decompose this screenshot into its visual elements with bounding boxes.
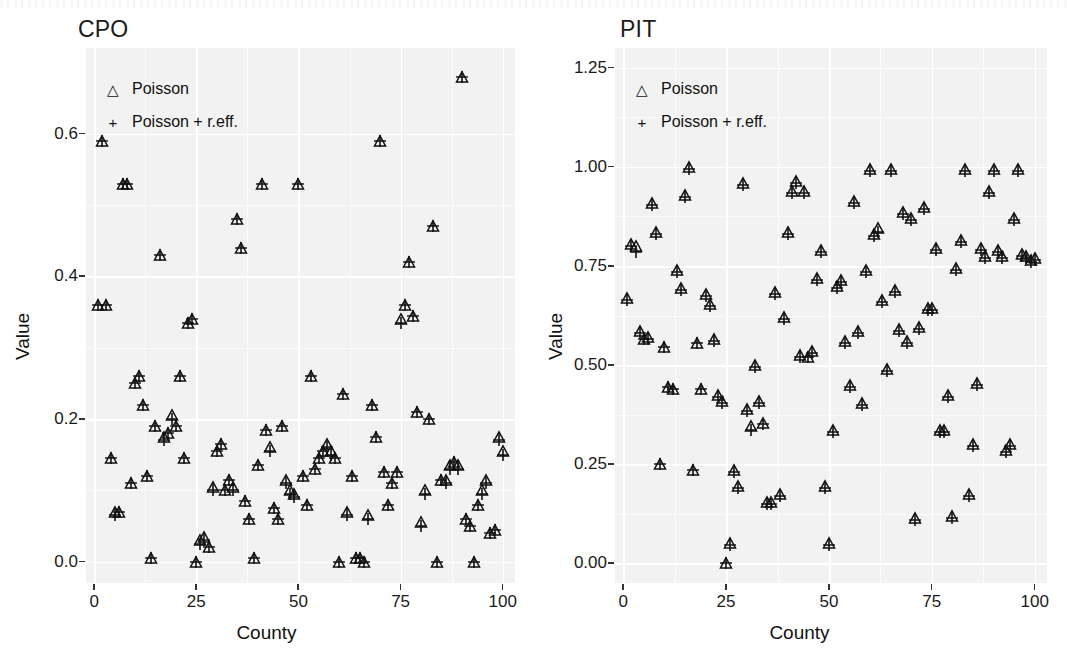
plus-marker [239, 494, 252, 507]
triangle-marker [884, 162, 897, 175]
gridline-major-horizontal [615, 266, 1047, 268]
plus-marker [913, 323, 926, 336]
gridline-major-vertical [503, 48, 505, 583]
plus-marker [255, 177, 268, 190]
triangle-marker [757, 416, 770, 429]
triangle-marker [790, 174, 803, 187]
triangle-marker [321, 437, 334, 450]
plus-marker [235, 241, 248, 254]
plus-marker [161, 427, 174, 440]
plus-marker [427, 220, 440, 233]
triangle-marker [674, 281, 687, 294]
y-tick-mark [608, 364, 614, 366]
plus-marker [300, 498, 313, 511]
triangle-marker [629, 240, 642, 253]
plus-marker [157, 434, 170, 447]
triangle-marker [810, 271, 823, 284]
triangle-marker [231, 213, 244, 226]
triangle-marker [938, 424, 951, 437]
x-tick-label: 100 [1020, 592, 1048, 612]
triangle-marker [451, 459, 464, 472]
plus-marker [954, 236, 967, 249]
plus-marker [971, 378, 984, 391]
triangle-marker [243, 512, 256, 525]
plus-marker [133, 370, 146, 383]
gridline-major-vertical [401, 48, 403, 583]
plus-marker [267, 502, 280, 515]
plus-marker [892, 325, 905, 338]
triangle-marker [736, 176, 749, 189]
plus-marker [761, 497, 774, 510]
triangle-marker [178, 452, 191, 465]
gridline-minor-horizontal [86, 490, 515, 491]
plus-marker [888, 285, 901, 298]
plus-marker [472, 498, 485, 511]
y-tick-mark [79, 133, 85, 135]
triangle-marker [329, 452, 342, 465]
triangle-marker [958, 162, 971, 175]
plus-marker [276, 420, 289, 433]
plus-marker [843, 380, 856, 393]
legend-item: +Poisson + r.eff. [100, 113, 238, 131]
triangle-marker [202, 541, 215, 554]
triangle-marker [983, 184, 996, 197]
plus-marker [765, 497, 778, 510]
plus-marker [153, 248, 166, 261]
triangle-marker [753, 394, 766, 407]
plus-marker [325, 448, 338, 461]
triangle-marker [851, 325, 864, 338]
plus-marker [757, 418, 770, 431]
plus-marker [459, 512, 472, 525]
triangle-marker [267, 502, 280, 515]
triangle-marker [703, 297, 716, 310]
plus-marker [691, 337, 704, 350]
triangle-marker [464, 519, 477, 532]
plus-marker [484, 527, 497, 540]
plus-marker [104, 452, 117, 465]
plus-marker [979, 252, 992, 265]
triangle-marker [427, 220, 440, 233]
y-tick-mark [608, 562, 614, 564]
gridline-major-horizontal [615, 68, 1047, 70]
legend-label: Poisson [661, 80, 718, 98]
legend-label: Poisson + r.eff. [132, 113, 238, 131]
triangle-marker [345, 470, 358, 483]
plus-marker [901, 337, 914, 350]
legend-item: +Poisson + r.eff. [629, 113, 767, 131]
plus-marker [210, 445, 223, 458]
gridline-minor-vertical [778, 48, 779, 583]
triangle-marker [954, 234, 967, 247]
plus-marker [999, 446, 1012, 459]
plus-marker: + [100, 115, 126, 130]
y-tick-mark [608, 265, 614, 267]
triangle-marker [1003, 438, 1016, 451]
triangle-marker [459, 512, 472, 525]
plus-marker [658, 341, 671, 354]
triangle-marker [769, 285, 782, 298]
y-tick-label: 0.4 [42, 266, 78, 286]
triangle-marker [1016, 248, 1029, 261]
plus-marker [699, 289, 712, 302]
x-tick-label: 0 [618, 592, 627, 612]
plus-marker [476, 487, 489, 500]
plus-marker [251, 459, 264, 472]
triangle-marker [814, 244, 827, 257]
triangle-marker [1008, 212, 1021, 225]
triangle-marker [157, 430, 170, 443]
x-tick-mark [828, 584, 830, 590]
triangle-marker [169, 420, 182, 433]
triangle-marker [934, 424, 947, 437]
panel-title-pit: PIT [620, 16, 656, 43]
triangle-marker [410, 405, 423, 418]
gridline-minor-horizontal [86, 348, 515, 349]
plus-marker [814, 246, 827, 259]
triangle-marker [806, 345, 819, 358]
legend-label: Poisson + r.eff. [661, 113, 767, 131]
triangle-marker [777, 311, 790, 324]
plus-marker [728, 466, 741, 479]
triangle-marker [210, 445, 223, 458]
y-tick-label: 1.25 [571, 58, 607, 78]
triangle-marker [843, 378, 856, 391]
plus-marker [781, 228, 794, 241]
triangle-marker [255, 177, 268, 190]
